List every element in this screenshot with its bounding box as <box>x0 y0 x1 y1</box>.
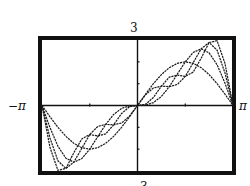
plot-area <box>0 0 250 186</box>
